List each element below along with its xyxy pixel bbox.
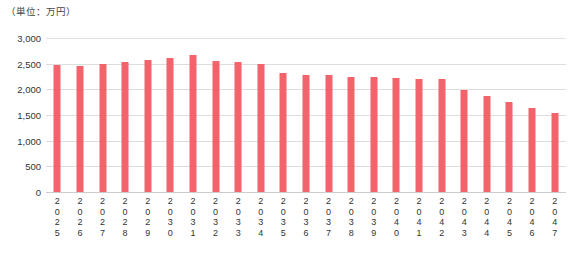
x-axis-tick-digit: 2 <box>453 196 476 207</box>
y-axis-tick-label: 500 <box>25 161 41 172</box>
bar[interactable] <box>257 64 264 192</box>
x-axis-tick-label: 2045 <box>498 196 521 238</box>
x-axis-tick-digit: 3 <box>363 217 386 228</box>
x-axis-tick-label: 2044 <box>476 196 499 238</box>
bar-slot <box>227 38 250 192</box>
bar[interactable] <box>167 58 174 192</box>
x-axis-tick-digit: 2 <box>521 196 544 207</box>
x-axis-tick-digit: 2 <box>69 217 92 228</box>
x-axis-tick-digit: 6 <box>295 228 318 239</box>
x-axis-tick-digit: 4 <box>408 217 431 228</box>
x-axis-tick-digit: 2 <box>159 196 182 207</box>
x-axis-tick-digit: 2 <box>204 228 227 239</box>
bar[interactable] <box>529 108 536 192</box>
x-axis-tick-digit: 0 <box>543 207 566 218</box>
bar[interactable] <box>99 64 106 192</box>
x-axis-tick-digit: 2 <box>385 196 408 207</box>
bar[interactable] <box>235 62 242 192</box>
bar[interactable] <box>506 102 513 192</box>
x-axis-tick-label: 2034 <box>249 196 272 238</box>
x-axis-tick-digit: 7 <box>543 228 566 239</box>
x-axis-tick-digit: 3 <box>295 217 318 228</box>
x-axis-tick-digit: 2 <box>91 217 114 228</box>
x-axis-tick-label: 2027 <box>91 196 114 238</box>
bar-slot <box>453 38 476 192</box>
x-axis-tick-digit: 6 <box>69 228 92 239</box>
x-axis-tick-digit: 0 <box>249 207 272 218</box>
x-axis-tick-digit: 0 <box>136 207 159 218</box>
x-axis-tick-digit: 4 <box>249 228 272 239</box>
x-axis-tick-digit: 2 <box>136 196 159 207</box>
x-axis-tick-digit: 4 <box>430 217 453 228</box>
x-axis-tick-label: 2037 <box>317 196 340 238</box>
bar-slot <box>430 38 453 192</box>
x-axis-tick-label: 2028 <box>114 196 137 238</box>
bar[interactable] <box>189 55 196 192</box>
x-axis-tick-digit: 0 <box>498 207 521 218</box>
bar[interactable] <box>551 113 558 192</box>
x-axis-tick-digit: 0 <box>69 207 92 218</box>
x-axis-tick-digit: 0 <box>159 228 182 239</box>
x-axis-tick-digit: 2 <box>317 196 340 207</box>
x-axis-tick-digit: 3 <box>272 217 295 228</box>
bar[interactable] <box>438 79 445 192</box>
bar-slot <box>91 38 114 192</box>
x-axis-tick-label: 2042 <box>430 196 453 238</box>
x-axis-tick-digit: 3 <box>340 217 363 228</box>
bar[interactable] <box>348 77 355 193</box>
y-axis-tick-label: 3,000 <box>17 33 41 44</box>
bar-slot <box>340 38 363 192</box>
x-axis-tick-digit: 0 <box>114 207 137 218</box>
bar[interactable] <box>54 65 61 192</box>
x-axis-tick-digit: 2 <box>227 196 250 207</box>
x-axis-tick-digit: 0 <box>182 207 205 218</box>
bar-slot <box>272 38 295 192</box>
x-axis-tick-digit: 3 <box>159 217 182 228</box>
x-axis-tick-digit: 5 <box>498 228 521 239</box>
bar[interactable] <box>302 75 309 192</box>
x-axis-tick-label: 2038 <box>340 196 363 238</box>
bar-slot <box>249 38 272 192</box>
bar[interactable] <box>144 60 151 192</box>
bar[interactable] <box>325 75 332 192</box>
x-axis-tick-label: 2033 <box>227 196 250 238</box>
x-axis-tick-digit: 0 <box>46 207 69 218</box>
bar[interactable] <box>483 96 490 192</box>
x-axis-tick-label: 2040 <box>385 196 408 238</box>
bar-slot <box>363 38 386 192</box>
x-axis-tick-digit: 5 <box>46 228 69 239</box>
bar[interactable] <box>416 79 423 192</box>
bar[interactable] <box>370 77 377 192</box>
bar[interactable] <box>393 78 400 192</box>
gridline: 0 <box>46 192 566 193</box>
x-axis-tick-digit: 5 <box>272 228 295 239</box>
x-axis-tick-digit: 2 <box>69 196 92 207</box>
bar[interactable] <box>461 90 468 192</box>
x-axis-tick-digit: 4 <box>543 217 566 228</box>
x-axis-tick-digit: 3 <box>249 217 272 228</box>
x-axis-tick-digit: 0 <box>295 207 318 218</box>
y-axis-tick-label: 1,000 <box>17 135 41 146</box>
bar[interactable] <box>280 73 287 192</box>
x-axis-tick-label: 2029 <box>136 196 159 238</box>
bar[interactable] <box>212 61 219 192</box>
bar-slot <box>476 38 499 192</box>
x-axis-tick-digit: 2 <box>363 196 386 207</box>
bar[interactable] <box>76 66 83 192</box>
x-axis-tick-digit: 2 <box>46 196 69 207</box>
x-axis-tick-digit: 0 <box>363 207 386 218</box>
x-axis-tick-digit: 8 <box>114 228 137 239</box>
x-axis-tick-label: 2031 <box>182 196 205 238</box>
bar-slot <box>498 38 521 192</box>
x-axis-tick-digit: 6 <box>521 228 544 239</box>
bar[interactable] <box>122 62 129 192</box>
x-axis-tick-digit: 3 <box>317 217 340 228</box>
x-axis-tick-digit: 2 <box>204 196 227 207</box>
x-axis-tick-digit: 7 <box>317 228 340 239</box>
x-axis-tick-digit: 0 <box>340 207 363 218</box>
unit-caption: （単位：万円） <box>6 4 76 18</box>
x-axis-tick-digit: 2 <box>91 196 114 207</box>
bar-slot <box>69 38 92 192</box>
x-axis-tick-digit: 2 <box>430 196 453 207</box>
x-axis-tick-digit: 3 <box>453 228 476 239</box>
